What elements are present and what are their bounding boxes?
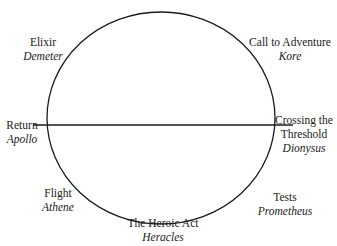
deity-label: Dionysus — [272, 141, 336, 155]
stage-label: Elixir — [18, 35, 68, 49]
deity-label: Athene — [33, 200, 83, 214]
deity-label: Demeter — [18, 49, 68, 63]
node-call-to-adventure: Call to Adventure Kore — [240, 35, 337, 63]
deity-label: Prometheus — [245, 204, 325, 218]
deity-label: Heracles — [118, 230, 208, 244]
node-crossing-threshold: Crossing the Threshold Dionysus — [272, 113, 336, 155]
deity-label: Apollo — [2, 132, 42, 146]
stage-label: Return — [2, 118, 42, 132]
node-return: Return Apollo — [2, 118, 42, 146]
stage-label: The Heroic Act — [118, 216, 208, 230]
stage-label: Tests — [245, 190, 325, 204]
node-tests: Tests Prometheus — [245, 190, 325, 218]
stage-label: Call to Adventure — [240, 35, 337, 49]
node-flight: Flight Athene — [33, 186, 83, 214]
stage-label-line2: Threshold — [272, 127, 336, 141]
stage-label-line1: Crossing the — [272, 113, 336, 127]
stage-label: Flight — [33, 186, 83, 200]
node-elixir: Elixir Demeter — [18, 35, 68, 63]
deity-label: Kore — [240, 49, 337, 63]
node-heroic-act: The Heroic Act Heracles — [118, 216, 208, 244]
